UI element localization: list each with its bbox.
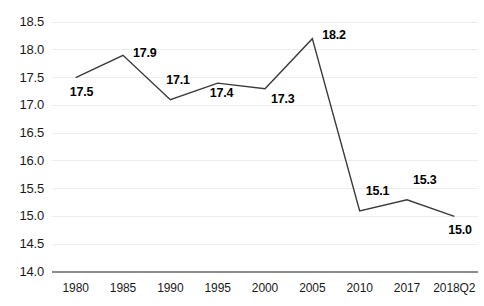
x-tick-label: 2017 [383, 281, 430, 295]
data-value-label: 15.3 [413, 173, 437, 187]
y-tick-label: 14.0 [4, 264, 44, 279]
x-tick-label: 1990 [147, 281, 194, 295]
data-value-label: 17.1 [166, 73, 190, 87]
data-value-label: 18.2 [322, 28, 346, 42]
y-tick-label: 16.5 [4, 125, 44, 140]
line-chart: 14.014.515.015.516.016.517.017.518.018.5… [0, 0, 484, 306]
x-tick-label: 2010 [336, 281, 383, 295]
data-value-label: 17.4 [210, 86, 234, 100]
y-tick-label: 17.0 [4, 97, 44, 112]
y-tick-label: 17.5 [4, 70, 44, 85]
x-tick-label: 1985 [99, 281, 146, 295]
y-tick-label: 16.0 [4, 153, 44, 168]
x-tick-label: 1980 [52, 281, 99, 295]
data-value-label: 17.9 [133, 46, 157, 60]
y-tick-label: 14.5 [4, 236, 44, 251]
y-tick-label: 15.0 [4, 208, 44, 223]
gridlines-group [52, 22, 478, 272]
x-tick-label: 2000 [241, 281, 288, 295]
x-tick-label: 1995 [194, 281, 241, 295]
x-tick-label: 2005 [289, 281, 336, 295]
data-value-label: 17.3 [271, 92, 295, 106]
data-value-label: 15.1 [366, 184, 390, 198]
chart-plot-area [0, 0, 484, 306]
y-tick-label: 18.5 [4, 14, 44, 29]
data-series-line [76, 39, 455, 217]
data-value-label: 15.0 [448, 223, 472, 237]
data-value-label: 17.5 [70, 85, 94, 99]
x-tick-label: 2018Q2 [431, 281, 478, 295]
y-tick-label: 15.5 [4, 181, 44, 196]
y-tick-label: 18.0 [4, 42, 44, 57]
